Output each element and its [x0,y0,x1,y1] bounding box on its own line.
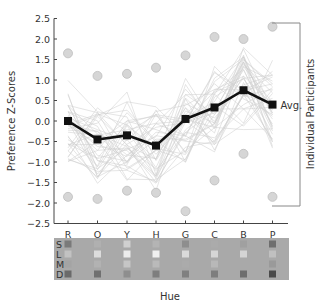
color-swatch [124,251,131,258]
color-swatch [153,271,160,278]
extreme-marker-circle [64,192,73,201]
x-tick-label: R [65,229,72,240]
color-swatch-grid: SLMD [54,238,289,280]
extreme-marker-circle [123,186,132,195]
x-tick-label: B [240,229,247,240]
average-marker [240,86,248,94]
participants-bracket: Individual Participants [272,23,316,206]
color-swatch [211,271,218,278]
color-swatch [153,241,160,248]
extreme-marker-circle [64,49,73,58]
extreme-marker-circle [239,149,248,158]
bracket-label: Individual Participants [305,59,316,170]
color-swatch [65,261,72,268]
color-swatch [124,271,131,278]
color-swatch [240,251,247,258]
y-tick-label: −1.5 [27,177,50,188]
average-marker [64,117,72,125]
color-swatch [94,271,101,278]
x-tick-label: O [94,229,101,240]
bracket-line [272,23,300,206]
color-swatch [94,241,101,248]
y-tick-label: 0.0 [35,116,50,127]
extreme-marker-circle [181,207,190,216]
color-swatch [124,261,131,268]
hue-preference-chart: 2.52.01.51.00.50.0−0.5−1.0−1.5−2.0−2.5 R… [0,0,330,308]
y-tick-label: −2.5 [27,218,50,229]
color-swatch [65,251,72,258]
y-tick-label: 2.5 [35,13,50,24]
color-swatch [269,251,276,258]
color-swatch [153,251,160,258]
y-axis-label: Preference Z-Scores [6,71,17,171]
color-swatch [182,261,189,268]
average-marker [211,103,219,111]
extreme-marker-circle [93,71,102,80]
color-swatch [269,241,276,248]
y-axis: 2.52.01.51.00.50.0−0.5−1.0−1.5−2.0−2.5 [27,13,57,229]
color-swatch [240,261,247,268]
extreme-marker-circle [210,176,219,185]
color-swatch [94,261,101,268]
y-tick-label: 2.0 [35,34,50,45]
extreme-marker-circle [181,51,190,60]
individual-participant-lines [68,48,273,191]
average-marker [94,135,102,143]
x-tick-label: Y [123,229,130,240]
color-swatch [65,271,72,278]
average-marker [269,101,277,109]
x-tick-label: H [152,229,159,240]
color-swatch [240,271,247,278]
color-swatch [240,241,247,248]
x-tick-label: P [270,229,276,240]
swatch-background [54,238,289,280]
color-swatch [182,271,189,278]
extreme-marker-circle [268,192,277,201]
y-tick-label: −2.0 [27,198,50,209]
color-swatch [211,261,218,268]
color-swatch [211,251,218,258]
color-swatch [182,251,189,258]
x-tick-label: G [182,229,189,240]
extreme-marker-circle [152,188,161,197]
average-marker [123,131,131,139]
color-swatch [211,241,218,248]
extreme-marker-circle [123,69,132,78]
extreme-marker-circle [210,32,219,41]
x-axis: ROYHGCBP [54,221,288,240]
x-axis-label: Hue [160,291,180,302]
avg-label: Avg. [281,100,303,111]
swatch-row-label: D [56,269,63,280]
y-tick-label: −0.5 [27,136,50,147]
extreme-marker-circle [93,194,102,203]
extreme-marker-circle [268,22,277,31]
extreme-marker-circle [239,35,248,44]
color-swatch [269,261,276,268]
color-swatch [94,251,101,258]
y-tick-label: 0.5 [35,95,50,106]
y-tick-label: −1.0 [27,157,50,168]
y-tick-label: 1.5 [35,54,50,65]
color-swatch [153,261,160,268]
y-tick-label: 1.0 [35,75,50,86]
color-swatch [124,241,131,248]
extreme-marker-circle [152,63,161,72]
color-swatch [65,241,72,248]
x-tick-label: C [211,229,218,240]
average-marker [152,142,160,150]
color-swatch [269,271,276,278]
average-marker [182,115,190,123]
color-swatch [182,241,189,248]
